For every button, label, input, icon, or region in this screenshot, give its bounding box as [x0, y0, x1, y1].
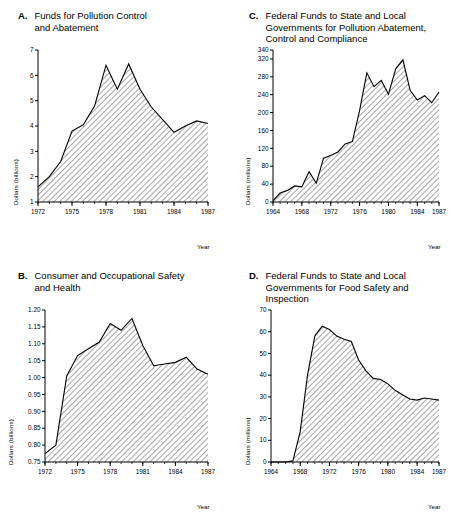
svg-text:70: 70: [259, 306, 267, 313]
svg-text:7: 7: [30, 46, 34, 53]
svg-text:1987: 1987: [201, 468, 216, 475]
svg-text:1980: 1980: [381, 468, 396, 475]
svg-text:5: 5: [30, 97, 34, 104]
panel-a-title-line-2: and Abatement: [35, 22, 147, 34]
svg-text:1981: 1981: [136, 468, 151, 475]
svg-text:320: 320: [258, 55, 269, 62]
panel-a-title-line-1: Funds for Pollution Control: [35, 10, 147, 22]
svg-text:20: 20: [259, 415, 267, 422]
panel-b-title-line-2: and Health: [35, 282, 185, 294]
panel-d-chart-svg: 0102030405060701964196819721976198019841…: [231, 300, 461, 500]
panel-c-title-line-1: Federal Funds to State and Local: [266, 10, 427, 22]
svg-text:240: 240: [258, 91, 269, 98]
svg-text:80: 80: [261, 162, 269, 169]
svg-text:50: 50: [259, 350, 267, 357]
svg-text:1972: 1972: [322, 468, 337, 475]
svg-text:0.80: 0.80: [28, 441, 41, 448]
svg-text:1.10: 1.10: [28, 340, 41, 347]
svg-text:1964: 1964: [266, 208, 281, 215]
svg-text:0: 0: [265, 198, 269, 205]
svg-text:160: 160: [258, 127, 269, 134]
svg-text:1987: 1987: [432, 468, 447, 475]
panel-b-letter: B.: [18, 270, 28, 293]
panel-d-x-axis-label: Year: [428, 503, 441, 510]
panel-b-heading: B. Consumer and Occupational Safety and …: [18, 270, 226, 293]
panel-a-x-axis-label: Year: [197, 243, 210, 250]
panel-b-chart-svg: 0.750.800.850.900.951.001.051.101.151.20…: [0, 300, 230, 500]
svg-text:40: 40: [259, 371, 267, 378]
panel-d: D. Federal Funds to State and Local Gove…: [231, 260, 461, 520]
svg-text:1964: 1964: [264, 468, 279, 475]
svg-text:120: 120: [258, 145, 269, 152]
svg-text:0: 0: [263, 458, 267, 465]
svg-text:1976: 1976: [352, 208, 367, 215]
panel-c: C. Federal Funds to State and Local Gove…: [231, 0, 461, 260]
panel-a-chart-svg: 1234567197219751978198119841987: [0, 40, 230, 240]
panel-b-x-axis-label: Year: [197, 503, 210, 510]
svg-text:60: 60: [259, 328, 267, 335]
panel-a-plot: 1234567197219751978198119841987: [0, 40, 230, 240]
panel-c-plot: 0408012016020024028032034019641968197219…: [231, 40, 461, 240]
svg-text:1.20: 1.20: [28, 306, 41, 313]
svg-text:1980: 1980: [381, 208, 396, 215]
svg-text:0.90: 0.90: [28, 408, 41, 415]
svg-text:1.05: 1.05: [28, 357, 41, 364]
panel-d-title-line-1: Federal Funds to State and Local: [266, 270, 409, 282]
panel-a: A. Funds for Pollution Control and Abate…: [0, 0, 230, 260]
svg-text:1978: 1978: [103, 468, 118, 475]
svg-text:0.85: 0.85: [28, 424, 41, 431]
panel-d-title-line-2: Governments for Food Safety and: [266, 282, 409, 294]
svg-text:40: 40: [261, 180, 269, 187]
svg-text:30: 30: [259, 393, 267, 400]
svg-text:1972: 1972: [31, 208, 46, 215]
svg-text:1984: 1984: [410, 208, 425, 215]
panel-b: B. Consumer and Occupational Safety and …: [0, 260, 230, 520]
panel-d-plot: 0102030405060701964196819721976198019841…: [231, 300, 461, 500]
svg-text:0.95: 0.95: [28, 391, 41, 398]
svg-text:4: 4: [30, 122, 34, 129]
panel-b-plot: 0.750.800.850.900.951.001.051.101.151.20…: [0, 300, 230, 500]
svg-text:1972: 1972: [38, 468, 53, 475]
panel-b-title: Consumer and Occupational Safety and Hea…: [35, 270, 185, 293]
svg-text:1.15: 1.15: [28, 323, 41, 330]
svg-text:1987: 1987: [432, 208, 447, 215]
svg-text:1975: 1975: [70, 468, 85, 475]
svg-text:10: 10: [259, 436, 267, 443]
svg-text:1984: 1984: [410, 468, 425, 475]
panel-a-heading: A. Funds for Pollution Control and Abate…: [18, 10, 226, 33]
svg-text:6: 6: [30, 72, 34, 79]
svg-text:280: 280: [258, 73, 269, 80]
panel-b-y-axis-label: Dollars (billions): [7, 419, 14, 465]
svg-text:340: 340: [258, 46, 269, 53]
panel-d-y-axis-label: Dollars (millions): [244, 417, 251, 465]
panel-b-title-line-1: Consumer and Occupational Safety: [35, 270, 185, 282]
svg-text:1984: 1984: [168, 468, 183, 475]
svg-text:3: 3: [30, 148, 34, 155]
svg-text:2: 2: [30, 173, 34, 180]
svg-text:200: 200: [258, 109, 269, 116]
svg-text:1975: 1975: [65, 208, 80, 215]
svg-text:1: 1: [30, 198, 34, 205]
svg-text:1978: 1978: [99, 208, 114, 215]
panel-c-chart-svg: 0408012016020024028032034019641968197219…: [231, 40, 461, 240]
svg-text:1976: 1976: [352, 468, 367, 475]
panel-c-title-line-2: Governments for Pollution Abatement,: [266, 22, 427, 34]
svg-text:1984: 1984: [167, 208, 182, 215]
svg-text:1.00: 1.00: [28, 374, 41, 381]
panel-c-y-axis-label: Dollars (millions): [244, 157, 251, 205]
panel-a-letter: A.: [18, 10, 28, 33]
svg-text:1972: 1972: [324, 208, 339, 215]
svg-text:0.75: 0.75: [28, 458, 41, 465]
figure-sheet: A. Funds for Pollution Control and Abate…: [0, 0, 461, 520]
panel-a-y-axis-label: Dollars (billions): [12, 159, 19, 205]
svg-text:1981: 1981: [133, 208, 148, 215]
svg-text:1968: 1968: [293, 468, 308, 475]
panel-a-title: Funds for Pollution Control and Abatemen…: [35, 10, 147, 33]
svg-text:1968: 1968: [295, 208, 310, 215]
panel-c-x-axis-label: Year: [428, 243, 441, 250]
svg-text:1987: 1987: [201, 208, 216, 215]
